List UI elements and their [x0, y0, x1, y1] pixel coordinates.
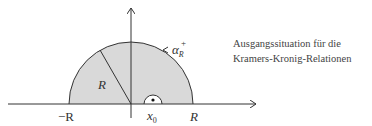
radius-label: R [97, 77, 106, 92]
pos-r-label: R [189, 109, 198, 124]
caption-line-2: Kramers-Kronig-Relationen [233, 51, 372, 66]
arc-alpha-sup: + [181, 38, 186, 48]
neg-r-label: −R [58, 109, 74, 124]
caption-line-1: Ausgangssituation für die [233, 36, 372, 51]
figure-caption: Ausgangssituation für die Kramers-Kronig… [233, 36, 372, 66]
x0-label: x0 [146, 108, 157, 125]
pole-point [151, 98, 154, 101]
